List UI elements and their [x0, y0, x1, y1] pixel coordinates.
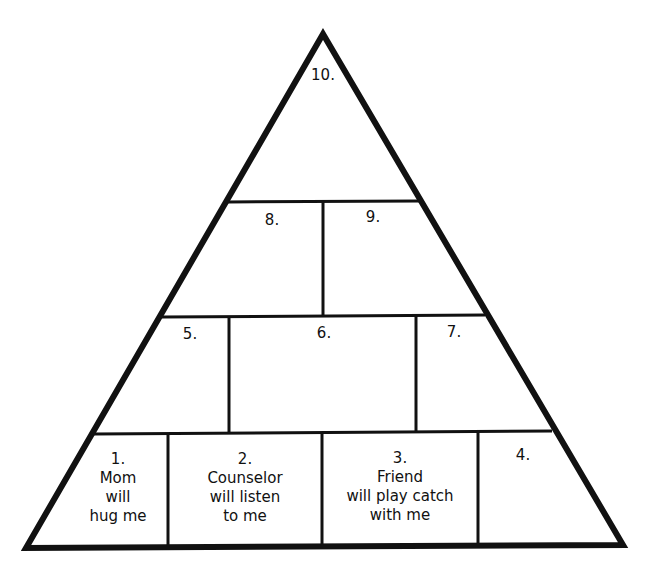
- block-7: 7.: [424, 323, 484, 342]
- block-9: 9.: [343, 208, 403, 227]
- block-6: 6.: [294, 324, 354, 343]
- block-text-line: with me: [324, 506, 476, 525]
- block-number: 2.: [170, 450, 320, 469]
- block-5: 5.: [160, 325, 220, 344]
- block-3: 3. Friend will play catch with me: [324, 449, 476, 525]
- block-number: 3.: [324, 449, 476, 468]
- block-number: 10.: [293, 66, 353, 85]
- block-text-line: to me: [170, 507, 320, 526]
- block-number: 6.: [294, 324, 354, 343]
- block-number: 9.: [343, 208, 403, 227]
- block-number: 8.: [242, 211, 302, 230]
- block-number: 1.: [70, 450, 166, 469]
- block-number: 7.: [424, 323, 484, 342]
- block-text-line: will: [70, 488, 166, 507]
- block-2: 2. Counselor will listen to me: [170, 450, 320, 526]
- block-1: 1. Mom will hug me: [70, 450, 166, 526]
- block-text-line: Counselor: [170, 469, 320, 488]
- block-number: 5.: [160, 325, 220, 344]
- block-text-line: Friend: [324, 468, 476, 487]
- block-text-line: will play catch: [324, 487, 476, 506]
- block-10: 10.: [293, 66, 353, 85]
- block-text-line: hug me: [70, 507, 166, 526]
- block-text-line: will listen: [170, 488, 320, 507]
- block-8: 8.: [242, 211, 302, 230]
- block-number: 4.: [493, 446, 553, 465]
- block-text-line: Mom: [70, 469, 166, 488]
- block-4: 4.: [493, 446, 553, 465]
